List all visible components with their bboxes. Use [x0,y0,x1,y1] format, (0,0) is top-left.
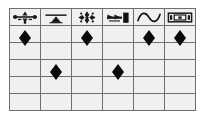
diamond-marker [112,64,124,72]
column-header-2[interactable] [41,9,72,26]
sine-wave-icon [134,10,164,25]
diamond-marker [81,30,93,38]
empty-cell [103,80,104,90]
diamond-marker [174,30,186,38]
matrix-cell[interactable] [10,26,41,43]
matrix-cell[interactable] [134,26,165,43]
empty-cell [134,97,135,107]
empty-cell [10,63,11,73]
empty-cell [41,97,42,107]
matrix-cell[interactable] [41,26,72,43]
dark-block-marker-icon [103,10,133,25]
matrix-cell[interactable] [72,77,103,94]
matrix-cell[interactable] [165,26,196,43]
matrix-cell[interactable] [41,60,72,77]
empty-cell [103,29,104,39]
matrix-cell[interactable] [41,94,72,111]
column-header-3[interactable] [72,9,103,26]
empty-cell [165,63,166,73]
empty-cell [134,80,135,90]
empty-cell [165,97,166,107]
boxed-rectangle-icon [165,10,195,25]
four-point-star-cluster-icon [72,10,102,25]
column-header-1[interactable] [10,9,41,26]
empty-cell [103,46,104,56]
matrix-cell[interactable] [134,94,165,111]
matrix-cell[interactable] [72,94,103,111]
empty-cell [41,29,42,39]
empty-cell [41,80,42,90]
empty-cell [72,46,73,56]
table-header-row [10,9,196,26]
screenshot-root [0,0,204,113]
matrix-cell[interactable] [103,26,134,43]
empty-cell [103,97,104,107]
empty-cell [165,80,166,90]
matrix-cell[interactable] [103,94,134,111]
empty-cell [72,80,73,90]
matrix-cell[interactable] [165,77,196,94]
empty-cell [10,80,11,90]
matrix-cell[interactable] [10,60,41,77]
table-row [10,43,196,60]
empty-cell [10,97,11,107]
empty-cell [134,63,135,73]
table-row [10,26,196,43]
spread-bar-icon [10,10,40,25]
column-header-4[interactable] [103,9,134,26]
column-header-5[interactable] [134,9,165,26]
table-row [10,77,196,94]
symbol-matrix-table [9,8,196,111]
matrix-cell[interactable] [134,77,165,94]
matrix-cell[interactable] [10,77,41,94]
matrix-cell[interactable] [10,94,41,111]
column-header-6[interactable] [165,9,196,26]
diamond-marker [143,30,155,38]
matrix-cell[interactable] [165,60,196,77]
matrix-cell[interactable] [72,60,103,77]
matrix-cell[interactable] [41,43,72,60]
matrix-cell[interactable] [103,43,134,60]
empty-cell [72,63,73,73]
triangle-on-bar-icon [41,10,71,25]
diamond-marker [19,30,31,38]
empty-cell [41,46,42,56]
empty-cell [10,46,11,56]
matrix-cell[interactable] [165,94,196,111]
empty-cell [72,97,73,107]
table-row [10,60,196,77]
matrix-cell[interactable] [103,60,134,77]
empty-cell [134,46,135,56]
empty-cell [165,46,166,56]
table-row [10,94,196,111]
diamond-marker [50,64,62,72]
matrix-cell[interactable] [134,60,165,77]
matrix-cell[interactable] [72,26,103,43]
